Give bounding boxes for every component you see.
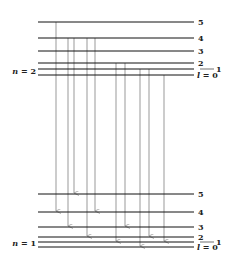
upper-level-label: 2 (198, 58, 204, 68)
lower-level-label: 3 (198, 222, 204, 232)
upper-n-label: n = 2 (12, 66, 36, 76)
lower-level-label: 5 (198, 189, 204, 199)
upper-level-label: 4 (198, 33, 204, 43)
upper-level-label: 5 (198, 17, 204, 27)
lower-n-label: n = 1 (12, 238, 36, 248)
energy-level-diagram: 54321l = 0n = 254321l = 0n = 1 (0, 0, 241, 271)
lower-level-label: l = 0 (197, 242, 218, 252)
lower-level-label: 2 (198, 232, 204, 242)
upper-level-label: l = 0 (197, 70, 218, 80)
lower-level-label: 4 (198, 207, 204, 217)
upper-level-label: 3 (198, 46, 204, 56)
